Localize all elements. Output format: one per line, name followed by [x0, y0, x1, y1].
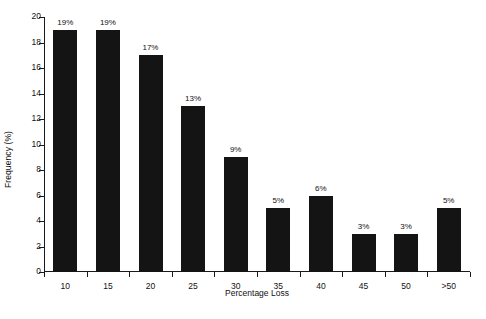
- y-axis-tick-label: 2: [36, 241, 41, 252]
- y-axis-tick-label: 14: [32, 88, 41, 99]
- x-axis-tick-mark: [214, 272, 215, 277]
- x-axis-tick-mark: [87, 272, 88, 277]
- y-axis-tick-label: 16: [32, 62, 41, 73]
- y-axis-tick-label: 0: [36, 266, 41, 277]
- bar-value-label: 5%: [257, 196, 300, 206]
- y-axis-tick-label: 4: [36, 215, 41, 226]
- bar: [352, 234, 376, 272]
- x-axis-tick-mark: [342, 272, 343, 277]
- bar: [309, 196, 333, 273]
- y-axis-tick-label: 18: [32, 37, 41, 48]
- bar-value-label: 17%: [129, 43, 172, 53]
- y-axis-tick-label: 20: [32, 11, 41, 22]
- bar: [437, 208, 461, 272]
- y-axis-tick-label: 6: [36, 190, 41, 201]
- bar-value-label: 3%: [385, 222, 428, 232]
- bar: [266, 208, 290, 272]
- bar: [53, 30, 77, 272]
- bar-value-label: 19%: [87, 18, 130, 28]
- x-axis-tick-mark: [44, 272, 45, 277]
- bar-value-label: 9%: [214, 145, 257, 155]
- y-axis-title: Frequency (%): [0, 0, 16, 319]
- x-axis-tick-mark: [129, 272, 130, 277]
- y-axis-line: [44, 17, 45, 272]
- x-axis-tick-mark: [172, 272, 173, 277]
- bar: [394, 234, 418, 272]
- bar-chart-figure: Frequency (%) 02468101214161820 10152025…: [0, 0, 486, 319]
- bar: [224, 157, 248, 272]
- y-axis-tick-label: 12: [32, 113, 41, 124]
- bar-value-label: 3%: [342, 222, 385, 232]
- x-axis-tick-mark: [427, 272, 428, 277]
- x-axis-tick-mark: [385, 272, 386, 277]
- plot-area: 02468101214161820 101520253035404550>50 …: [44, 17, 470, 272]
- y-axis-tick-label: 8: [36, 164, 41, 175]
- y-axis-tick-label: 10: [32, 139, 41, 150]
- x-axis-tick-mark: [257, 272, 258, 277]
- bar-value-label: 6%: [300, 184, 343, 194]
- bar: [139, 55, 163, 272]
- bar-value-label: 19%: [44, 18, 87, 28]
- x-axis-tick-mark: [470, 272, 471, 277]
- x-axis-tick-mark: [300, 272, 301, 277]
- bar-value-label: 5%: [427, 196, 470, 206]
- bar-value-label: 13%: [172, 94, 215, 104]
- bar: [181, 106, 205, 272]
- bar: [96, 30, 120, 272]
- x-axis-title: Percentage Loss: [44, 288, 470, 298]
